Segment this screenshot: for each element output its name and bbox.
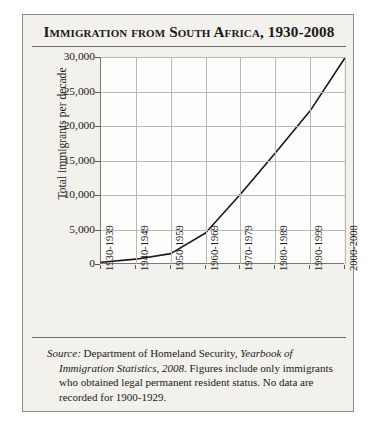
y-axis-tick-mark: [95, 92, 100, 93]
x-axis-tick-mark: [205, 265, 206, 269]
y-axis-tick-mark: [95, 161, 100, 162]
x-axis-tick-mark: [344, 265, 345, 269]
gridline-vertical: [240, 57, 241, 264]
y-axis-tick-mark: [95, 126, 100, 127]
y-axis-tick-mark: [95, 195, 100, 196]
x-axis-tick-label: 1990-1999: [313, 225, 324, 271]
gridline-vertical: [310, 57, 311, 264]
x-axis-tick-labels: 1930-19391940-19491950-19591960-19691970…: [100, 265, 344, 327]
gridline-horizontal: [101, 57, 345, 58]
y-axis-tick-label: 25,000: [39, 85, 95, 97]
gridline-vertical: [275, 57, 276, 264]
source-divider: [32, 337, 346, 338]
y-axis-tick-label: 5,000: [39, 223, 95, 235]
x-axis-tick-label: 1970-1979: [243, 225, 254, 271]
x-axis-tick-label: 2000-2008: [348, 225, 359, 271]
gridline-vertical: [136, 57, 137, 264]
gridline-vertical: [171, 57, 172, 264]
gridline-horizontal: [101, 195, 345, 196]
source-note: Source: Department of Homeland Security,…: [47, 346, 349, 404]
y-axis-tick-label: 20,000: [39, 119, 95, 131]
gridline-vertical: [206, 57, 207, 264]
x-axis-tick-mark: [135, 265, 136, 269]
source-label: Source:: [47, 347, 81, 359]
y-axis-tick-mark: [95, 57, 100, 58]
x-axis-tick-label: 1960-1969: [209, 225, 220, 271]
title-divider: [32, 46, 346, 47]
x-axis-tick-label: 1950-1959: [174, 225, 185, 271]
x-axis-tick-mark: [309, 265, 310, 269]
gridline-horizontal: [101, 126, 345, 127]
x-axis-tick-label: 1980-1989: [278, 225, 289, 271]
plot-area: [100, 57, 344, 264]
x-axis-tick-mark: [274, 265, 275, 269]
page-title: Immigration from South Africa, 1930-2008: [23, 23, 355, 41]
x-axis-tick-mark: [239, 265, 240, 269]
gridline-horizontal: [101, 161, 345, 162]
x-axis-tick-label: 1930-1939: [104, 225, 115, 271]
y-axis-tick-labels: 05,00010,00015,00020,00025,00030,000: [35, 57, 95, 264]
figure-frame: Immigration from South Africa, 1930-2008…: [22, 14, 354, 412]
gridline-vertical: [345, 57, 346, 264]
y-axis-tick-label: 0: [39, 257, 95, 269]
y-axis-tick-label: 15,000: [39, 154, 95, 166]
x-axis-tick-mark: [170, 265, 171, 269]
gridline-horizontal: [101, 230, 345, 231]
x-axis-tick-mark: [100, 265, 101, 269]
y-axis-tick-mark: [95, 264, 100, 265]
source-publisher: Department of Homeland Security,: [81, 347, 240, 359]
y-axis-tick-label: 30,000: [39, 50, 95, 62]
y-axis-tick-mark: [95, 230, 100, 231]
x-axis-tick-label: 1940-1949: [139, 225, 150, 271]
gridline-horizontal: [101, 92, 345, 93]
y-axis-tick-label: 10,000: [39, 188, 95, 200]
